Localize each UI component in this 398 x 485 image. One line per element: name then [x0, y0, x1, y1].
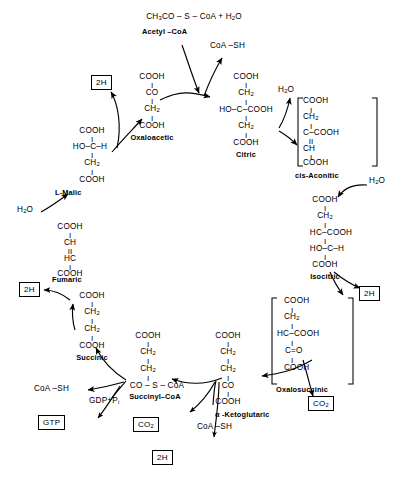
box-co2-oxalosuccinic: CO2: [308, 396, 334, 411]
malic-line-1: HO–C–H: [73, 142, 107, 151]
oxaloacetic-line-3: COOH: [139, 121, 164, 130]
gdp-pi-label: GDP+Pi: [89, 396, 120, 408]
arrow-oxaloacetic-to-citric: [160, 93, 210, 100]
coash-top-label: CoA –SH: [210, 41, 245, 50]
succinic-label: Succinic: [76, 353, 108, 362]
fumaric-line-2: HC: [64, 254, 76, 263]
box-2h-fumaric: 2H: [19, 282, 40, 297]
water-citric-label: H2O: [278, 85, 294, 97]
arrow-coash-out-bottom: [88, 382, 124, 390]
coash-bottom-label: CoA –SH: [197, 422, 232, 431]
acetyl-coa-formula: CH3CO – S – CoA + H2O: [146, 12, 242, 24]
arrow-aconitic-to-isocitric: [338, 185, 367, 197]
arrow-coash-out-top: [204, 58, 222, 96]
succinylcoa-label: Succinyl–CoA: [129, 392, 181, 401]
isocitric-line-3: HO–C–H: [310, 244, 344, 253]
oxalosuccinic-label: Oxalosuccinic: [276, 385, 328, 394]
oxaloacetic-label: Oxaloacetic: [130, 133, 173, 142]
coash-succinyl-label: CoA –SH: [34, 384, 69, 393]
box-gtp: GTP: [38, 415, 65, 430]
aconitic-line-2: C–COOH: [303, 128, 339, 137]
aconitic-label: cis-Aconitic: [295, 171, 339, 180]
oxaloacetic-line-1: CO: [146, 88, 159, 97]
arrow-acetylcoa-in: [182, 45, 199, 93]
arrow-layer: [0, 0, 398, 485]
aconitic-line-3: CH: [303, 144, 315, 153]
arrow-citric-water-out: [279, 98, 290, 128]
acetyl-coa-label: Acetyl –CoA: [142, 27, 187, 36]
bracket-oxalosuccinic-left: [272, 298, 277, 384]
oxaloacetic-line-0: COOH: [139, 72, 164, 81]
oxalosuccinic-line-3: C=O: [285, 346, 303, 355]
citric-line-2: HO–C–COOH: [219, 105, 273, 114]
krebs-cycle-diagram: CH3CO – S – CoA + H2O Acetyl –CoA CoA –S…: [0, 0, 398, 485]
malic-line-3: COOH: [79, 175, 104, 184]
succinylcoa-line-3: CO – S – CoA: [130, 381, 184, 390]
l-malic-label: L-Malic: [55, 188, 82, 197]
citric-line-4: COOH: [233, 138, 258, 147]
oxalosuccinic-line-0: COOH: [284, 296, 309, 305]
water-aconitic-label: H2O: [369, 176, 385, 188]
isocitric-line-0: COOH: [312, 195, 337, 204]
isocitric-label: Isocitric: [310, 272, 340, 281]
arrow-citric-to-aconitic: [279, 131, 297, 145]
oxalosuccinic-line-4: COOH: [284, 363, 309, 372]
citric-line-0: COOH: [233, 72, 258, 81]
bracket-aconitic-right: [372, 98, 377, 166]
box-2h-ketoglutaric: 2H: [152, 450, 173, 465]
ketoglutaric-line-0: COOH: [215, 331, 240, 340]
box-2h-oxaloacetic: 2H: [91, 75, 112, 90]
box-co2-ketoglutaric: CO2: [133, 417, 159, 432]
fumaric-line-3: COOH: [57, 269, 82, 278]
ketoglutaric-label: α -Ketoglutaric: [215, 410, 269, 419]
succinic-line-0: COOH: [79, 291, 104, 300]
succinylcoa-line-0: COOH: [135, 331, 160, 340]
succinic-line-3: COOH: [79, 341, 104, 350]
fumaric-line-1: CH: [64, 238, 76, 247]
oxalosuccinic-line-2: HC–COOH: [277, 329, 319, 338]
arrow-succinic-2h: [44, 290, 70, 300]
ketoglutaric-line-3: CO: [222, 381, 235, 390]
fumaric-line-0: COOH: [57, 222, 82, 231]
malic-line-0: COOH: [79, 126, 104, 135]
arrow-ketoglutaric-co2: [190, 382, 215, 412]
box-2h-isocitric: 2H: [359, 286, 380, 301]
citric-label: Citric: [236, 150, 256, 159]
aconitic-line-0: COOH: [303, 96, 328, 105]
water-malic-label: H2O: [17, 205, 33, 217]
bracket-oxalosuccinic-right: [348, 298, 353, 384]
arrow-malic-2h: [111, 92, 119, 148]
isocitric-line-2: HC–COOH: [310, 228, 352, 237]
arrow-succinic-to-fumaric: [72, 304, 75, 330]
aconitic-line-4: COOH: [303, 158, 328, 167]
ketoglutaric-line-4: COOH: [215, 397, 240, 406]
isocitric-line-4: COOH: [312, 260, 337, 269]
